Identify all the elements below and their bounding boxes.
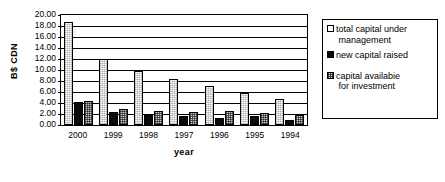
y-tick-label: 10.00 — [20, 65, 56, 74]
chart-legend: total capital under managementnew capita… — [322, 19, 438, 119]
bars-layer — [61, 15, 307, 125]
y-tick-label: 14.00 — [20, 43, 56, 52]
legend-item-1[interactable]: total capital under management — [327, 24, 434, 45]
y-tick-label: 6.00 — [20, 87, 56, 96]
bar-1994-series-3[interactable] — [295, 115, 304, 125]
y-axis-tick-labels: 20.0018.0016.0014.0012.0010.008.006.004.… — [20, 13, 56, 126]
x-tick-label-1998: 1998 — [131, 130, 166, 140]
bar-1999-series-1[interactable] — [99, 59, 108, 125]
legend-swatch-icon-3 — [327, 72, 334, 79]
x-tick-label-1995: 1995 — [237, 130, 272, 140]
bar-group-1996 — [202, 15, 237, 125]
bar-1996-series-3[interactable] — [225, 111, 234, 125]
x-tick-label-1997: 1997 — [166, 130, 201, 140]
legend-swatch-icon-1 — [327, 25, 334, 32]
bar-group-1998 — [131, 15, 166, 125]
bar-1994-series-1[interactable] — [275, 99, 284, 125]
bar-1994-series-2[interactable] — [285, 120, 294, 126]
bar-group-1999 — [96, 15, 131, 125]
bar-1995-series-3[interactable] — [260, 113, 269, 125]
y-axis-title: B$ CDN — [9, 26, 19, 96]
y-tick-label: 12.00 — [20, 54, 56, 63]
bar-group-1995 — [237, 15, 272, 125]
y-tick-label: 0.00 — [20, 120, 56, 129]
bar-1996-series-1[interactable] — [205, 86, 214, 125]
x-axis-tick-labels: 2000199919981997199619951994 — [60, 130, 308, 140]
bar-1997-series-1[interactable] — [169, 79, 178, 125]
y-tick-label: 8.00 — [20, 76, 56, 85]
x-axis-title: year — [60, 147, 308, 157]
plot-area — [60, 14, 308, 126]
bar-1998-series-1[interactable] — [134, 71, 143, 125]
y-tick-label: 18.00 — [20, 21, 56, 30]
bar-1999-series-3[interactable] — [119, 109, 128, 125]
bar-1998-series-3[interactable] — [154, 111, 163, 125]
bar-1997-series-2[interactable] — [179, 116, 188, 125]
bar-1996-series-2[interactable] — [215, 118, 224, 125]
bar-1998-series-2[interactable] — [144, 114, 153, 125]
y-tick-mark — [58, 125, 61, 126]
bar-1997-series-3[interactable] — [189, 112, 198, 125]
legend-label-3: capital availabie for investment — [336, 71, 400, 92]
bar-2000-series-1[interactable] — [64, 22, 73, 125]
bar-2000-series-3[interactable] — [84, 101, 93, 125]
bar-chart-figure: B$ CDN 20.0018.0016.0014.0012.0010.008.0… — [0, 0, 445, 182]
x-tick-label-1994: 1994 — [273, 130, 308, 140]
y-tick-label: 2.00 — [20, 109, 56, 118]
bar-1995-series-1[interactable] — [240, 93, 249, 125]
legend-label-1: total capital under management — [336, 24, 407, 45]
x-tick-label-1996: 1996 — [202, 130, 237, 140]
legend-item-2[interactable]: new capital raised — [327, 50, 434, 61]
bar-1999-series-2[interactable] — [109, 112, 118, 125]
bar-group-2000 — [61, 15, 96, 125]
bar-group-1994 — [272, 15, 307, 125]
legend-label-2: new capital raised — [336, 50, 408, 61]
y-tick-label: 4.00 — [20, 98, 56, 107]
legend-swatch-icon-2 — [327, 51, 334, 58]
x-tick-label-1999: 1999 — [95, 130, 130, 140]
bar-1995-series-2[interactable] — [250, 116, 259, 125]
bar-group-1997 — [166, 15, 201, 125]
bar-2000-series-2[interactable] — [74, 102, 83, 125]
y-tick-label: 20.00 — [20, 10, 56, 19]
legend-item-3[interactable]: capital availabie for investment — [327, 71, 434, 92]
y-tick-label: 16.00 — [20, 32, 56, 41]
x-tick-label-2000: 2000 — [60, 130, 95, 140]
